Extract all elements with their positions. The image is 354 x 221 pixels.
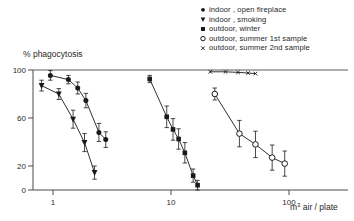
marker-filled-square <box>191 173 196 178</box>
y-axis-title: % phagocytosis <box>23 49 83 59</box>
marker-filled-circle <box>103 137 108 142</box>
y-tick-label: 0 <box>22 186 27 195</box>
legend-item[interactable]: outdoor, winter <box>201 24 261 33</box>
marker-open-circle <box>253 142 259 148</box>
marker-filled-circle <box>83 98 88 103</box>
marker-filled-square <box>164 115 169 120</box>
marker-filled-square <box>195 183 200 188</box>
marker-open-circle <box>237 131 243 137</box>
marker-open-circle <box>201 36 205 40</box>
marker-open-circle <box>212 91 218 97</box>
legend-item[interactable]: indoor , open fireplace <box>201 5 286 14</box>
x-tick-label: 1 <box>51 198 56 207</box>
marker-open-circle <box>269 155 275 161</box>
y-tick-label: 100 <box>13 66 27 75</box>
legend-item-label: outdoor, winter <box>209 24 261 33</box>
marker-filled-square <box>147 77 152 82</box>
legend-item-label: indoor , open fireplace <box>209 5 286 14</box>
marker-open-circle <box>282 161 288 167</box>
marker-filled-circle <box>48 73 53 78</box>
marker-filled-circle <box>66 77 71 82</box>
y-tick-label: 60 <box>17 114 26 123</box>
legend-item-label: outdoor, summer 1st sample <box>209 34 307 43</box>
chart-canvas: 02060100 110100 % phagocytosis m3 air / … <box>0 0 354 221</box>
legend-item-label: outdoor, summer 2nd sample <box>209 43 310 52</box>
legend-item[interactable]: outdoor, summer 2nd sample <box>201 43 310 52</box>
x-tick-label: 10 <box>167 198 176 207</box>
marker-filled-circle <box>75 86 80 91</box>
y-tick-label: 20 <box>17 162 26 171</box>
marker-filled-square <box>201 27 205 31</box>
legend-item[interactable]: outdoor, summer 1st sample <box>201 34 308 43</box>
phagocytosis-scatter-chart: 02060100 110100 % phagocytosis m3 air / … <box>0 0 354 221</box>
marker-filled-square <box>183 151 188 156</box>
marker-filled-square <box>176 137 181 142</box>
legend-item-label: indoor , smoking <box>209 15 266 24</box>
marker-filled-square <box>171 127 176 132</box>
marker-filled-circle <box>201 8 205 12</box>
legend-item[interactable]: indoor , smoking <box>201 15 267 24</box>
marker-filled-circle <box>96 130 101 135</box>
